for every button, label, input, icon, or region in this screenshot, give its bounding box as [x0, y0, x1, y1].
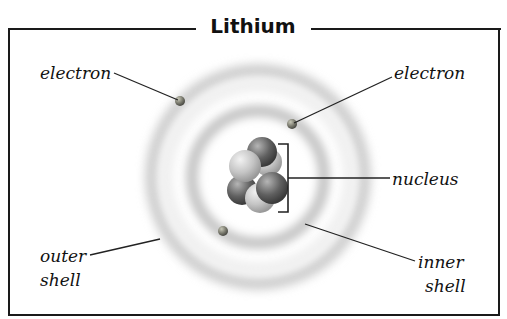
- electron-icon: [218, 226, 228, 236]
- electron-icon: [175, 96, 185, 106]
- nucleus-icon: [227, 137, 288, 213]
- label-electron-right: electron: [394, 62, 465, 84]
- label-outer-shell-line2: shell: [40, 269, 81, 291]
- electron-icon: [287, 119, 297, 129]
- label-inner-shell-line2: shell: [425, 275, 466, 297]
- label-nucleus: nucleus: [392, 168, 459, 190]
- leader-outer-shell: [90, 239, 160, 255]
- label-outer-shell-line1: outer: [40, 245, 86, 267]
- inner-shell: [192, 111, 324, 243]
- label-inner-shell-line1: inner: [418, 251, 464, 273]
- leader-electron-left: [114, 73, 178, 100]
- label-electron-left: electron: [40, 62, 111, 84]
